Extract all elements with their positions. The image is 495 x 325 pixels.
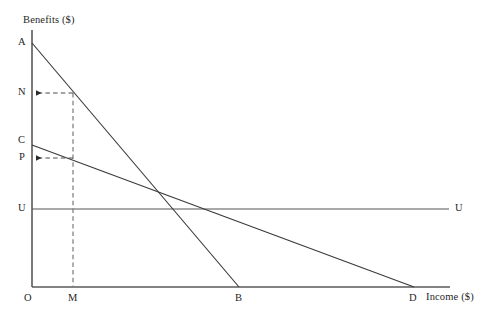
- axes-group: [32, 30, 450, 287]
- cd-line-group: [32, 145, 414, 287]
- ab-benefit-line: [32, 43, 239, 287]
- label-point-u-left: U: [18, 202, 26, 213]
- label-point-u-right: U: [455, 202, 463, 213]
- label-point-o: O: [24, 292, 32, 303]
- label-point-p: P: [19, 151, 25, 162]
- x-axis-caption: Income ($): [426, 291, 474, 302]
- diagram-canvas: [0, 0, 495, 325]
- ab-line-group: [32, 43, 239, 287]
- label-point-a: A: [18, 36, 26, 47]
- economics-benefits-income-diagram: Benefits ($) Income ($) A N C P U U O M …: [0, 0, 495, 325]
- label-point-m: M: [68, 292, 77, 303]
- label-point-d: D: [409, 292, 417, 303]
- label-point-n: N: [18, 86, 26, 97]
- y-axis-caption: Benefits ($): [23, 14, 75, 25]
- label-point-b: B: [235, 292, 242, 303]
- partial-caption: [6, 310, 326, 323]
- cd-benefit-line: [32, 145, 414, 287]
- label-point-c: C: [18, 134, 25, 145]
- guides-group: [36, 93, 73, 287]
